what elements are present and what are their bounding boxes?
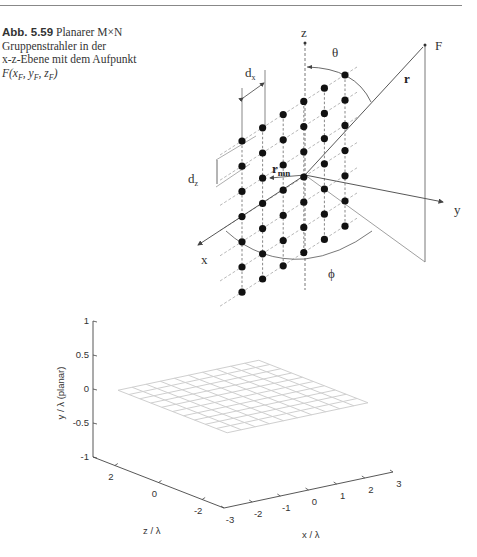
x-tick — [334, 482, 337, 484]
z-tick-label: 0 — [152, 488, 157, 499]
z-tick-label: 2 — [108, 471, 113, 482]
z-tick — [115, 464, 118, 466]
y-lambda-axis-label: y / λ (planar) — [55, 367, 66, 420]
z-lambda-axis-label: z / λ — [143, 525, 161, 536]
surface-plot: 10.50-0.5-1 y / λ (planar) 20-2 z / λ -3… — [0, 0, 477, 557]
y-tick — [93, 355, 97, 356]
z-tick — [202, 498, 205, 500]
x-tick — [249, 500, 252, 502]
y-tick-label: 0.5 — [76, 349, 89, 360]
y-tick-label: 1 — [84, 315, 89, 326]
x-tick-label: -3 — [226, 514, 234, 525]
y-tick — [93, 389, 97, 390]
x-lambda-axis-label: x / λ — [302, 529, 320, 540]
x-tick — [390, 470, 393, 472]
x-tick-label: 1 — [340, 490, 345, 501]
x-tick-label: 3 — [396, 478, 401, 489]
x-tick-label: 0 — [312, 496, 317, 507]
y-tick — [93, 321, 97, 322]
x-tick — [277, 494, 280, 496]
x-tick-label: -1 — [282, 502, 290, 513]
x-tick-label: 2 — [368, 484, 373, 495]
y-tick-label: -1 — [81, 451, 89, 462]
y-tick-label: 0 — [84, 383, 89, 394]
x-tick — [362, 476, 365, 478]
z-tick-label: -2 — [194, 505, 202, 516]
z-tick — [159, 481, 162, 483]
x-tick — [306, 488, 309, 490]
planar-mesh — [118, 360, 368, 433]
x-tick-label: -2 — [254, 508, 262, 519]
y-tick-label: -0.5 — [73, 417, 89, 428]
y-tick — [93, 423, 97, 424]
